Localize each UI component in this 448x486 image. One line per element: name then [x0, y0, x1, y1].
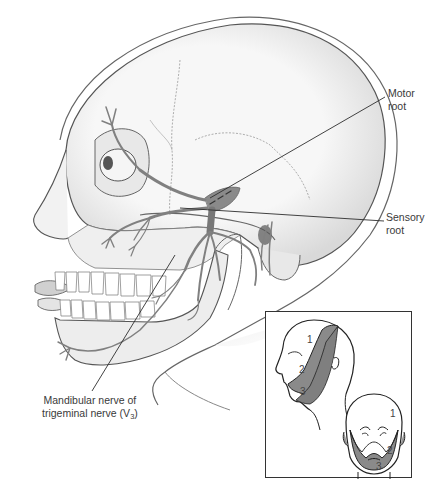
- sensory-root-label: Sensory root: [386, 211, 425, 236]
- mandibular-line2-prefix: trigeminal nerve (V: [42, 407, 130, 419]
- lower-teeth: [60, 300, 155, 320]
- lateral-region-2: 2: [299, 364, 305, 375]
- sensory-root-line2: root: [386, 224, 425, 237]
- frontal-region-2: 2: [387, 445, 393, 456]
- motor-root-label: Motor root: [388, 87, 415, 112]
- motor-root-line2: root: [388, 100, 415, 113]
- frontal-head-view: 1 2 3: [343, 394, 405, 479]
- mandibular-line1: Mandibular nerve of: [42, 394, 138, 407]
- dermatome-diagrams: 1 2 3 1 2 3: [266, 312, 413, 479]
- sensory-root-line1: Sensory: [386, 211, 425, 224]
- lateral-head-view: 1 2 3: [276, 320, 354, 430]
- lateral-region-1: 1: [307, 334, 313, 345]
- mandibular-nerve: [210, 210, 212, 232]
- nose: [34, 150, 68, 239]
- dermatome-inset: 1 2 3 1 2 3: [265, 311, 412, 478]
- upper-teeth: [55, 272, 166, 296]
- mandibular-nerve-label: Mandibular nerve of trigeminal nerve (V3…: [42, 394, 138, 423]
- frontal-region-1: 1: [390, 408, 396, 419]
- mandibular-line2: trigeminal nerve (V3): [42, 407, 138, 424]
- motor-root-line1: Motor: [388, 87, 415, 100]
- figure: Motor root Sensory root Mandibular nerve…: [0, 0, 448, 486]
- mandibular-line2-suffix: ): [134, 407, 138, 419]
- frontal-region-3: 3: [376, 461, 382, 472]
- neck: [165, 372, 230, 410]
- lateral-region-3: 3: [300, 386, 306, 397]
